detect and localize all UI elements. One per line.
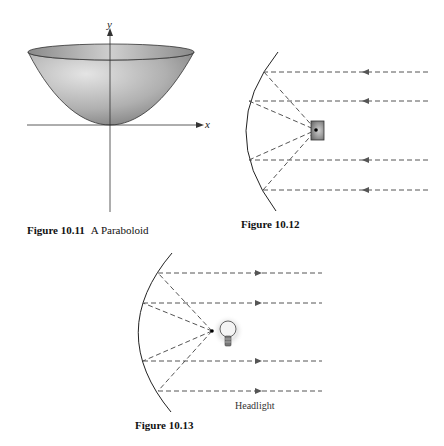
- parabolic-reflector: [138, 253, 172, 412]
- paraboloid-figure: [27, 28, 204, 212]
- right-arrow-icons: [255, 270, 262, 394]
- x-axis-arrow-icon: [196, 122, 204, 128]
- light-bulb-icon: [212, 315, 244, 347]
- figure-10-13-caption: Figure 10.13: [135, 419, 199, 431]
- incoming-rays: [249, 72, 428, 190]
- figure-number: Figure 10.13: [135, 419, 193, 431]
- figure-10-11-caption: Figure 10.11A Paraboloid: [27, 224, 149, 236]
- headlight-figure: [138, 253, 322, 412]
- figure-title: A Paraboloid: [91, 224, 149, 236]
- figure-10-12-caption: Figure 10.12: [241, 218, 305, 230]
- headlight-label: Headlight: [235, 400, 274, 411]
- paraboloid-surface: [28, 52, 194, 125]
- x-axis-label: x: [205, 118, 210, 130]
- y-axis-label: y: [107, 18, 112, 30]
- figure-number: Figure 10.11: [27, 224, 85, 236]
- receiver-figure: [246, 52, 428, 211]
- focus-point: [314, 128, 318, 132]
- paraboloid-rim: [28, 44, 194, 60]
- left-arrow-icons: [362, 69, 369, 193]
- focus-point: [210, 329, 214, 333]
- parabolic-mirror: [246, 52, 278, 211]
- figure-number: Figure 10.12: [241, 218, 299, 230]
- figures-canvas: [0, 0, 444, 446]
